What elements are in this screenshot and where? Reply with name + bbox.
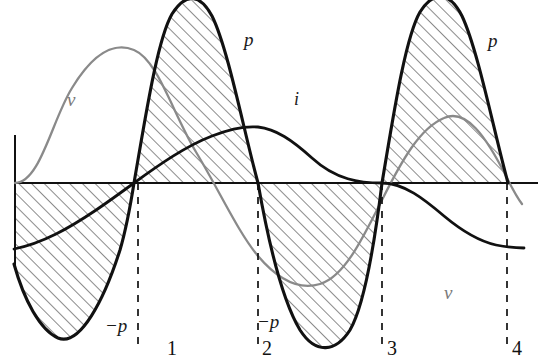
power-positive-lobe-1	[134, 0, 258, 183]
figure-canvas: v v i p p −p −p 1 2 3 4	[0, 0, 538, 364]
tick-label-1: 1	[167, 338, 177, 358]
tick-label-4: 4	[512, 338, 522, 358]
voltage-label-left: v	[67, 90, 75, 109]
tick-label-3: 3	[387, 338, 397, 358]
power-positive-lobe-2	[382, 0, 508, 183]
power-label-first: p	[244, 30, 254, 49]
tick-label-2: 2	[262, 338, 272, 358]
power-negative-label-first: −p	[105, 316, 127, 335]
current-label: i	[294, 90, 299, 108]
waveform-plot	[0, 0, 538, 364]
power-label-second: p	[488, 31, 498, 50]
power-negative-label-second: −p	[257, 312, 279, 331]
voltage-label-right: v	[444, 283, 452, 302]
